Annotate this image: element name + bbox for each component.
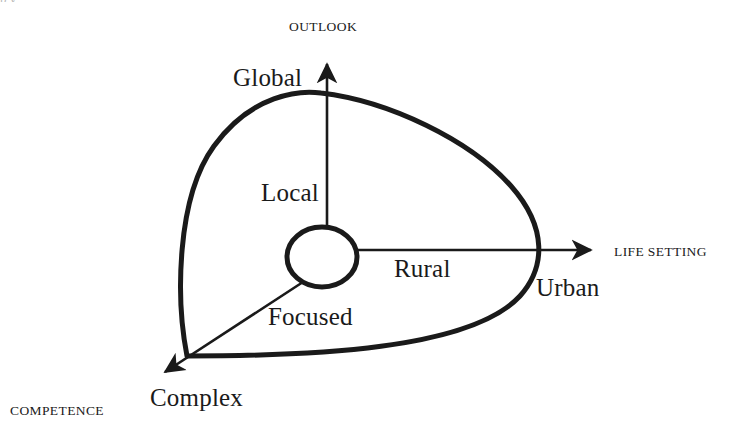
pole-label-urban: Urban: [536, 275, 599, 300]
origin-circle: [287, 227, 357, 287]
pole-label-rural: Rural: [394, 256, 451, 281]
pole-label-focused: Focused: [268, 304, 353, 329]
axis-label-competence: COMPETENCE: [10, 404, 104, 418]
pole-label-complex: Complex: [150, 385, 243, 410]
pole-label-global: Global: [233, 65, 302, 90]
axis-label-life-setting: LIFE SETTING: [614, 245, 707, 259]
pole-label-local: Local: [261, 180, 319, 205]
diagram-vector-layer: [0, 0, 734, 434]
origin-circle-shape: [287, 227, 357, 287]
axis-label-outlook: OUTLOOK: [289, 20, 357, 34]
diagram-canvas: p y OUTLOOK: [0, 0, 734, 434]
profile-curve-path: [181, 92, 539, 356]
profile-curve: [181, 92, 539, 356]
